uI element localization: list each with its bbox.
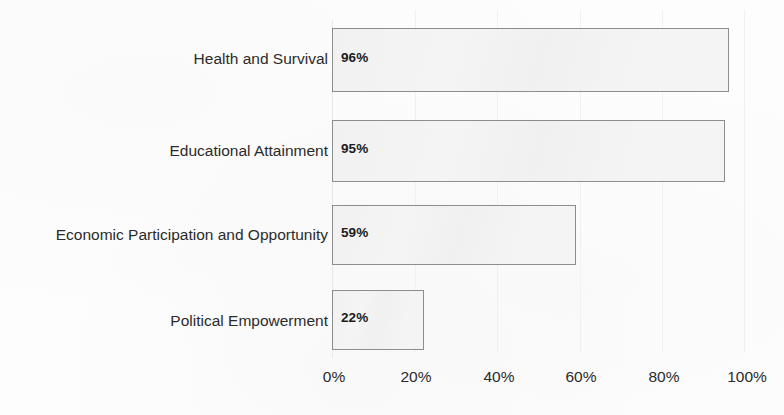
category-label-political-empowerment: Political Empowerment <box>0 312 330 330</box>
category-label-text: Educational Attainment <box>169 142 328 159</box>
xtick-label-100: 100% <box>727 368 767 386</box>
xtick-label-80: 80% <box>648 368 679 386</box>
bar-health-and-survival[interactable] <box>332 28 729 92</box>
category-label-text: Health and Survival <box>194 50 328 67</box>
bar-chart: Health and Survival 96% Educational Atta… <box>0 0 784 415</box>
bar-value-economic-participation-and-opportunity: 59% <box>341 225 368 240</box>
category-label-economic-participation-and-opportunity: Economic Participation and Opportunity <box>0 226 330 244</box>
bar-educational-attainment[interactable] <box>332 120 725 182</box>
category-label-educational-attainment: Educational Attainment <box>0 142 330 160</box>
bar-value-political-empowerment: 22% <box>341 310 368 325</box>
bar-economic-participation-and-opportunity[interactable] <box>332 205 576 265</box>
xtick-label-20: 20% <box>400 368 431 386</box>
xtick-label-40: 40% <box>483 368 514 386</box>
category-label-text: Economic Participation and Opportunity <box>56 226 328 243</box>
bar-value-educational-attainment: 95% <box>341 141 368 156</box>
category-label-health-and-survival: Health and Survival <box>0 50 330 68</box>
gridline-100 <box>744 10 745 352</box>
xtick-label-60: 60% <box>565 368 596 386</box>
xtick-label-0: 0% <box>323 368 345 386</box>
bar-value-health-and-survival: 96% <box>341 50 368 65</box>
category-label-text: Political Empowerment <box>170 312 328 329</box>
